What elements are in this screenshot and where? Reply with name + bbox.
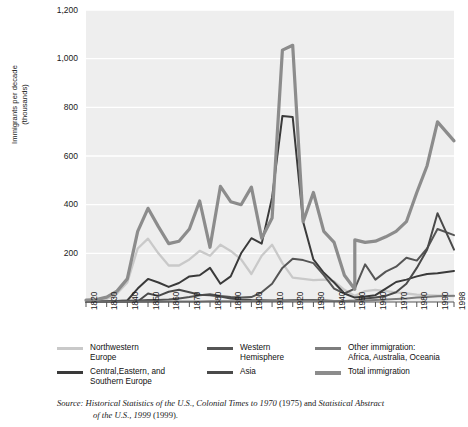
x-tick-label: 1980 <box>420 276 429 310</box>
x-tick-label: 1860 <box>172 276 181 310</box>
source-part2: (1975) and <box>277 398 319 408</box>
legend-item[interactable]: Total immigration <box>315 367 410 377</box>
x-tick-label: 1840 <box>131 276 140 310</box>
legend-label: Total immigration <box>348 367 410 377</box>
y-axis-title: Immigrants per decade (thousands) <box>10 40 29 170</box>
x-tick-label: 1990 <box>441 276 450 310</box>
y-tick-label: 600 <box>42 152 78 161</box>
legend-item[interactable]: Northwestern Europe <box>57 343 139 363</box>
legend-swatch-icon <box>57 371 83 374</box>
legend-item[interactable]: Central,Eastern, and Southern Europe <box>57 367 165 387</box>
legend-swatch-icon <box>315 371 341 375</box>
source-part4: of the U.S., 1999 <box>93 410 151 420</box>
legend-swatch-icon <box>315 347 341 350</box>
x-tick-label: 1830 <box>110 276 119 310</box>
y-tick-label: 200 <box>42 249 78 258</box>
y-tick-label: 1,200 <box>42 6 78 15</box>
legend-label: Northwestern Europe <box>90 343 139 363</box>
chart-legend: Northwestern EuropeWestern HemisphereOth… <box>0 343 468 389</box>
legend-swatch-icon <box>207 347 233 350</box>
source-part5: (1999). <box>151 410 178 420</box>
y-tick-label: 800 <box>42 103 78 112</box>
y-tick-label: 400 <box>42 200 78 209</box>
source-part3: Statistical Abstract <box>319 398 385 408</box>
legend-item[interactable]: Other immigration: Africa, Australia, Oc… <box>315 343 440 363</box>
y-tick-label: 1,000 <box>42 54 78 63</box>
source-note: Source: Historical Statistics of the U.S… <box>57 398 461 421</box>
x-tick-label: 1960 <box>379 276 388 310</box>
x-tick-label: 1880 <box>214 276 223 310</box>
legend-item[interactable]: Asia <box>207 367 256 377</box>
source-label: Source: <box>57 398 83 408</box>
x-tick-label: 1820 <box>90 276 99 310</box>
x-tick-label: 1940 <box>338 276 347 310</box>
immigration-chart-figure: Immigrants per decade (thousands) 1,2001… <box>0 0 468 427</box>
x-tick-label: 1910 <box>276 276 285 310</box>
x-tick-label: 1850 <box>152 276 161 310</box>
x-tick-label: 1970 <box>400 276 409 310</box>
source-part1: Historical Statistics of the U.S., Colon… <box>86 398 277 408</box>
x-tick-label: 1920 <box>296 276 305 310</box>
legend-label: Other immigration: Africa, Australia, Oc… <box>348 343 440 363</box>
x-tick-label: 1900 <box>255 276 264 310</box>
x-tick-label: 1870 <box>193 276 202 310</box>
legend-swatch-icon <box>57 347 83 350</box>
x-tick-label: 1930 <box>317 276 326 310</box>
legend-swatch-icon <box>207 371 233 374</box>
x-tick-label: 1950 <box>358 276 367 310</box>
x-tick-label: 1998 <box>458 276 467 310</box>
source-text: Historical Statistics of the U.S., Colon… <box>57 398 461 421</box>
legend-item[interactable]: Western Hemisphere <box>207 343 284 363</box>
plot-area-wrapper: Immigrants per decade (thousands) 1,2001… <box>0 0 468 315</box>
legend-label: Central,Eastern, and Southern Europe <box>90 367 165 387</box>
legend-label: Western Hemisphere <box>240 343 284 363</box>
legend-label: Asia <box>240 367 256 377</box>
source-line-2: of the U.S., 1999 (1999). <box>93 410 461 422</box>
x-tick-label: 1890 <box>234 276 243 310</box>
